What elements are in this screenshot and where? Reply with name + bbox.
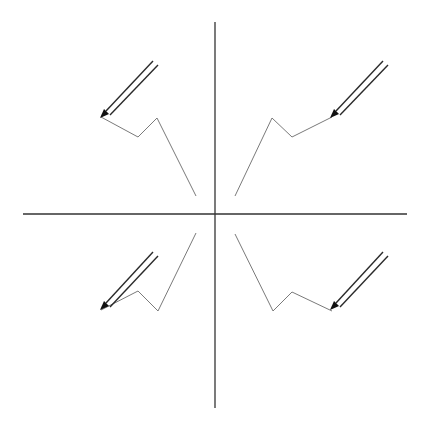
background bbox=[0, 0, 425, 432]
pencil-quadrant-diagram bbox=[0, 0, 425, 432]
